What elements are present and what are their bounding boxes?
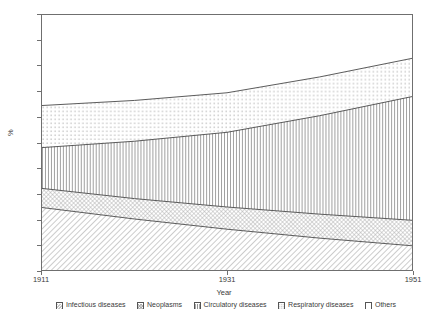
x-axis-tick-label: 1951 (383, 275, 443, 284)
legend-item-label: Infectious diseases (66, 301, 126, 309)
legend-item-neoplasms[interactable]: Neoplasms (137, 301, 182, 309)
chart-legend: Infectious diseasesNeoplasmsCirculatory … (56, 297, 396, 313)
chart-container: 1009080706050403020100 % (0, 0, 448, 326)
legend-item-label: Circulatory diseases (204, 301, 267, 309)
legend-item-label: Respiratory diseases (288, 301, 353, 309)
legend-swatch-icon (365, 302, 372, 309)
legend-item-infectious-diseases[interactable]: Infectious diseases (56, 301, 126, 309)
legend-item-respiratory-diseases[interactable]: Respiratory diseases (278, 301, 353, 309)
x-axis-tick-mark (227, 271, 228, 275)
area-bands (42, 15, 412, 270)
legend-item-label: Neoplasms (147, 301, 182, 309)
legend-swatch-icon (137, 302, 144, 309)
legend-swatch-icon (278, 302, 285, 309)
x-axis-tick-mark (41, 271, 42, 275)
legend-item-label: Others (375, 301, 396, 309)
plot-area (41, 14, 413, 271)
x-axis-tick-mark (413, 271, 414, 275)
x-axis-tick-label: 1911 (11, 275, 71, 284)
legend-swatch-icon (56, 302, 63, 309)
y-axis-title: % (6, 129, 15, 136)
legend-item-others[interactable]: Others (365, 301, 396, 309)
x-axis-title: Year (0, 288, 448, 297)
y-axis: 1009080706050403020100 (0, 0, 41, 285)
stacked-area-plot (42, 15, 412, 270)
legend-item-circulatory-diseases[interactable]: Circulatory diseases (194, 301, 267, 309)
legend-swatch-icon (194, 302, 201, 309)
x-axis-tick-label: 1931 (197, 275, 257, 284)
